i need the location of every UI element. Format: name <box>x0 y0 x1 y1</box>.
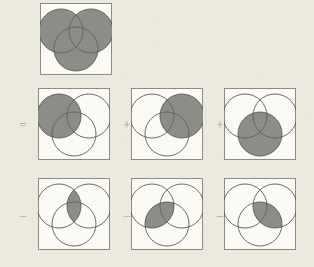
operator-equals: = <box>17 118 29 131</box>
venn-diagram <box>131 178 203 250</box>
venn-cell-union-abc <box>40 3 112 75</box>
venn-cell-intersection-bc <box>224 178 296 250</box>
venn-cell-set-b <box>131 88 203 160</box>
venn-cell-intersection-ac <box>131 178 203 250</box>
venn-diagram <box>38 88 110 160</box>
venn-diagram <box>131 88 203 160</box>
venn-diagram <box>224 178 296 250</box>
inclusion-exclusion-figure: =++––– <box>0 0 314 267</box>
venn-diagram <box>38 178 110 250</box>
venn-cell-intersection-ab <box>38 178 110 250</box>
operator-minus: – <box>17 208 29 221</box>
venn-diagram <box>224 88 296 160</box>
venn-cell-set-a <box>38 88 110 160</box>
venn-cell-set-c <box>224 88 296 160</box>
venn-diagram <box>40 3 112 75</box>
